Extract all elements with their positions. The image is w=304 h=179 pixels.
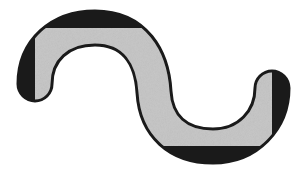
s-curve-fill (35, 28, 272, 146)
s-curve-figure (0, 0, 304, 179)
